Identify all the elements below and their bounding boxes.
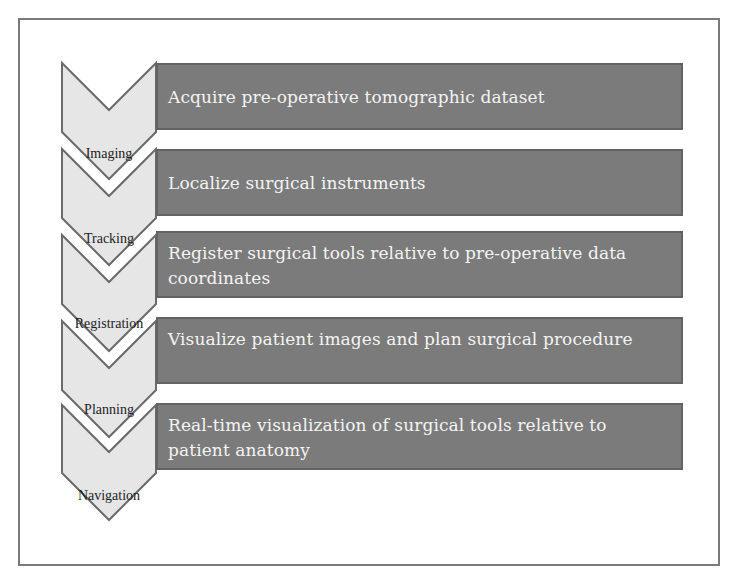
step-label-navigation: Navigation — [62, 488, 156, 504]
step-description-navigation: Real-time visualization of surgical tool… — [156, 403, 683, 470]
step-label-registration: Registration — [62, 316, 156, 332]
step-description-planning: Visualize patient images and plan surgic… — [156, 317, 683, 384]
step-description-tracking: Localize surgical instruments — [156, 149, 683, 216]
step-description-imaging: Acquire pre-operative tomographic datase… — [156, 63, 683, 130]
step-description-registration: Register surgical tools relative to pre-… — [156, 231, 683, 298]
process-flow-diagram: Imaging Tracking Registration Planning N… — [0, 0, 734, 586]
step-label-tracking: Tracking — [62, 231, 156, 247]
step-label-imaging: Imaging — [62, 146, 156, 162]
step-label-planning: Planning — [62, 402, 156, 418]
